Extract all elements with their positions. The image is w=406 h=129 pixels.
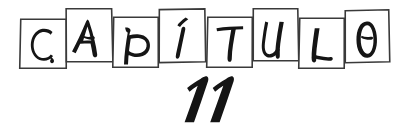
- letter-box-p: [113, 17, 159, 68]
- heading-artwork: [0, 0, 406, 129]
- letter-box-l: [299, 18, 345, 69]
- letter-box-a: [66, 8, 113, 62]
- letter-box-outline: [20, 19, 67, 69]
- letter-box-outline: [113, 17, 159, 68]
- chapter-heading-illustration: CAPÍTULO 11: [0, 0, 406, 129]
- letter-box-i-acute: [159, 9, 206, 63]
- letter-box-t: [207, 17, 253, 68]
- letter-box-outline: [66, 8, 113, 62]
- letter-box-c: [20, 19, 67, 69]
- letter-box-u: [253, 8, 299, 61]
- letter-box-outline: [299, 18, 345, 69]
- letter-box-o: [345, 10, 390, 63]
